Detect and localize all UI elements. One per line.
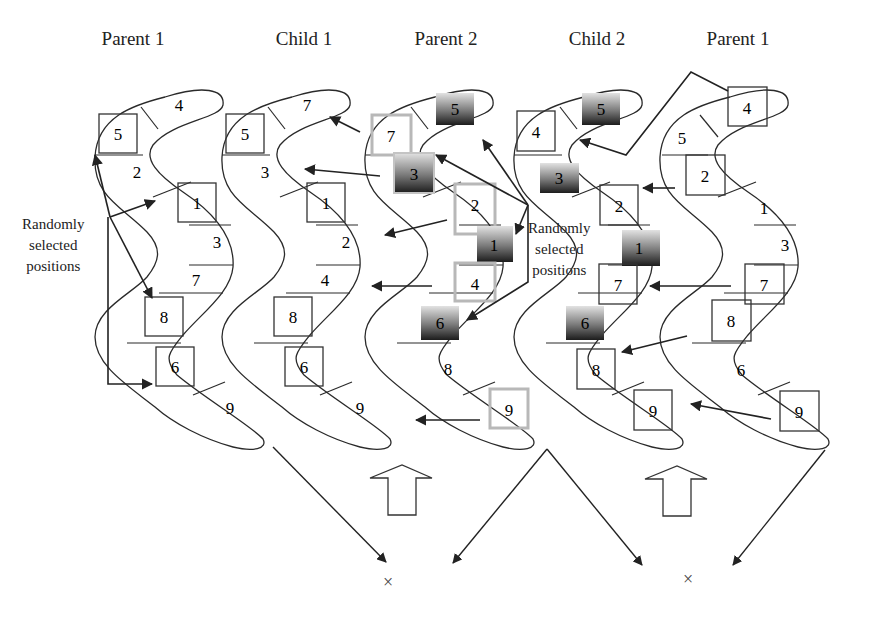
gene-label: 7 (303, 96, 312, 115)
gene-label: 7 (614, 276, 623, 295)
gene-label: 4 (321, 271, 330, 290)
genes-child1: 5 7 3 1 2 4 8 6 9 (226, 96, 364, 418)
gene-label: 9 (649, 402, 658, 421)
gene-label: 5 (451, 100, 460, 119)
gene-label: 9 (795, 403, 804, 422)
gene-label: 4 (471, 275, 480, 294)
gene-label: 3 (781, 236, 790, 255)
crossover-diagram: Parent 1 Child 1 Parent 2 Child 2 Parent… (0, 0, 885, 619)
gene-label: 8 (727, 312, 736, 331)
gene-label: 1 (635, 239, 644, 258)
gene-label: 1 (193, 194, 202, 213)
gene-label: 6 (737, 361, 746, 380)
crossover-mark-right: × (683, 569, 693, 589)
gene-label: 2 (133, 163, 142, 182)
gene-label: 3 (410, 165, 419, 184)
gene-label: 7 (387, 127, 396, 146)
gene-label: 8 (289, 308, 298, 327)
gene-label: 6 (171, 358, 180, 377)
gene-label: 6 (581, 314, 590, 333)
up-arrow-icon-right (645, 466, 707, 516)
gene-label: 3 (213, 233, 222, 252)
gene-label: 7 (192, 271, 201, 290)
gene-label: 4 (175, 96, 184, 115)
crossover-arrows (273, 447, 825, 565)
gene-label: 1 (490, 236, 499, 255)
gene-label: 5 (678, 129, 687, 148)
crossover-mark-left: × (383, 572, 393, 592)
gene-label: 4 (532, 123, 541, 142)
gene-label: 9 (226, 399, 235, 418)
gene-label: 9 (505, 401, 514, 420)
genes-parent1-left: 5 4 2 1 3 7 8 6 9 (99, 96, 234, 418)
selection-arrows-left (95, 155, 155, 384)
gene-label: 6 (436, 314, 445, 333)
gene-label: 5 (241, 125, 250, 144)
genes-parent2: 7 5 3 2 1 4 6 8 9 (372, 93, 528, 428)
up-arrow-icon-left (370, 465, 432, 515)
gene-label: 3 (261, 163, 270, 182)
gene-label: 2 (471, 196, 480, 215)
gene-label: 8 (444, 360, 453, 379)
gene-label: 1 (760, 199, 769, 218)
gene-label: 5 (597, 100, 606, 119)
gene-label: 2 (342, 233, 351, 252)
gene-label: 5 (114, 125, 123, 144)
gene-label: 7 (760, 276, 769, 295)
gene-label: 8 (160, 308, 169, 327)
gene-label: 3 (555, 169, 564, 188)
gene-label: 2 (701, 167, 710, 186)
gene-label: 6 (300, 358, 309, 377)
gene-label: 8 (592, 361, 601, 380)
gene-label: 9 (356, 399, 365, 418)
diagram-canvas: 5 4 2 1 3 7 8 6 9 (0, 0, 885, 619)
gene-label: 1 (322, 194, 331, 213)
gene-label: 2 (615, 197, 624, 216)
gene-label: 4 (743, 99, 752, 118)
